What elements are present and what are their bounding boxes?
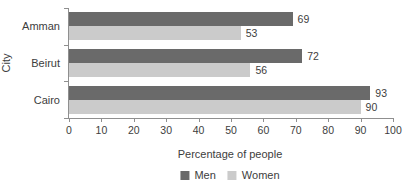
x-axis-tick-label: 50: [225, 124, 237, 136]
legend-item-women: Women: [228, 169, 280, 181]
legend-label: Men: [194, 169, 215, 181]
bar-beirut-women: [69, 63, 250, 77]
bar-row: 72: [69, 49, 393, 63]
bar-chart: City Amman6953Beirut7256Cairo93900102030…: [0, 0, 413, 194]
bar-row: 69: [69, 12, 393, 26]
bar-cairo-men: [69, 86, 370, 100]
bar-cairo-women: [69, 100, 361, 114]
bar-beirut-men: [69, 49, 302, 63]
x-axis-tick: [328, 118, 329, 122]
data-label: 56: [255, 64, 267, 76]
x-axis-tick-label: 100: [384, 124, 402, 136]
category-label: Cairo: [34, 94, 60, 106]
bar-row: 93: [69, 86, 393, 100]
data-label: 53: [246, 27, 258, 39]
bar-group-cairo: Cairo9390: [69, 81, 393, 118]
legend-item-men: Men: [180, 169, 215, 181]
x-axis-tick-label: 90: [355, 124, 367, 136]
x-axis-tick-label: 10: [96, 124, 108, 136]
data-label: 72: [307, 50, 319, 62]
bar-amman-men: [69, 12, 293, 26]
bar-group-beirut: Beirut7256: [69, 45, 393, 82]
legend: MenWomen: [180, 169, 279, 181]
category-label: Amman: [22, 20, 60, 32]
x-axis-tick: [69, 118, 70, 122]
bar-row: 56: [69, 63, 393, 77]
legend-label: Women: [242, 169, 280, 181]
category-label: Beirut: [31, 57, 60, 69]
bar-group-amman: Amman6953: [69, 8, 393, 45]
bar-row: 53: [69, 26, 393, 40]
x-axis-tick-label: 30: [160, 124, 172, 136]
x-axis-tick: [101, 118, 102, 122]
plot-area: Amman6953Beirut7256Cairo9390010203040506…: [68, 8, 393, 119]
bar-row: 90: [69, 100, 393, 114]
legend-swatch-men: [180, 171, 189, 180]
x-axis-tick: [231, 118, 232, 122]
x-axis-tick-label: 20: [128, 124, 140, 136]
data-label: 90: [366, 101, 378, 113]
x-axis-tick-label: 70: [290, 124, 302, 136]
y-axis-title: City: [0, 54, 12, 73]
x-axis-tick: [296, 118, 297, 122]
bar-amman-women: [69, 26, 241, 40]
data-label: 93: [375, 87, 387, 99]
x-axis-tick: [361, 118, 362, 122]
x-axis-tick-label: 60: [258, 124, 270, 136]
x-axis-tick-label: 40: [193, 124, 205, 136]
x-axis-tick: [393, 118, 394, 122]
x-axis-tick-label: 0: [66, 124, 72, 136]
x-axis-tick: [199, 118, 200, 122]
x-axis-tick: [166, 118, 167, 122]
x-axis-tick-label: 80: [322, 124, 334, 136]
data-label: 69: [298, 13, 310, 25]
x-axis-title: Percentage of people: [178, 148, 283, 160]
legend-swatch-women: [228, 171, 237, 180]
x-axis-tick: [263, 118, 264, 122]
x-axis-tick: [134, 118, 135, 122]
